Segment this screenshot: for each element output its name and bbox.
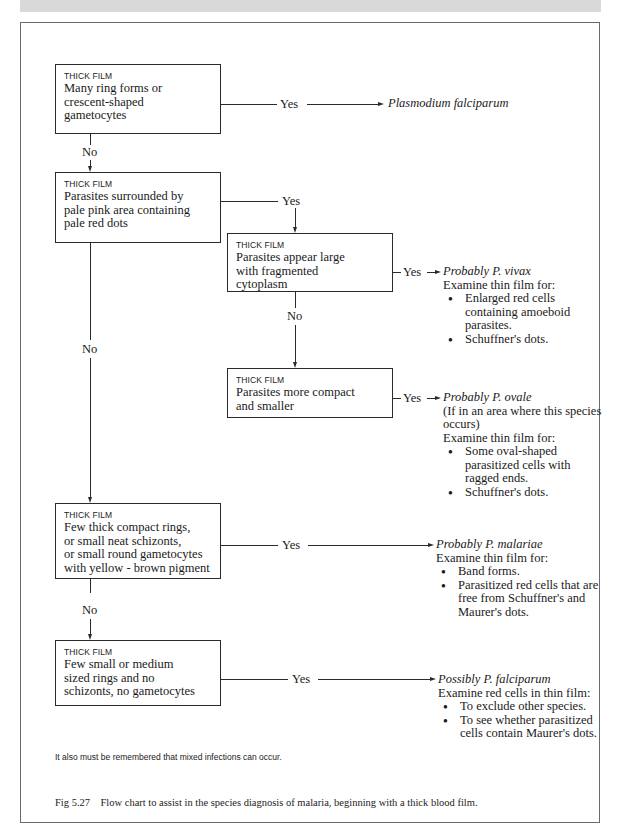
result-title: Probably P. ovale	[443, 391, 603, 405]
box-text: Few thick compact rings, or small neat s…	[64, 521, 212, 575]
arrow-right-icon	[378, 102, 384, 106]
result-bullets: Some oval-shaped parasitized cells with …	[443, 445, 603, 499]
result-title: Possibly P. falciparum	[438, 673, 598, 687]
bullet-item: Schuffner's dots.	[443, 333, 603, 347]
bullet-item: To see whether parasitized cells contain…	[438, 714, 598, 741]
connector-line	[221, 201, 278, 202]
arrow-right-icon	[430, 677, 436, 681]
connector-line	[295, 325, 296, 362]
bullet-item: Schuffner's dots.	[443, 486, 603, 500]
result-instruction: Examine red cells in thin film:	[438, 687, 598, 701]
edge-label-no: No	[82, 603, 97, 617]
result-instruction: Examine thin film for:	[436, 552, 601, 566]
arrow-right-icon	[435, 270, 441, 274]
bullet-item: Parasitized red cells that are free from…	[436, 579, 601, 620]
page-header-bar	[20, 0, 601, 12]
edge-label-no: No	[82, 145, 97, 159]
decision-box-pale-pink-area: THICK FILM Parasites surrounded by pale …	[55, 172, 221, 243]
decision-box-compact-smaller: THICK FILM Parasites more compact and sm…	[227, 368, 393, 418]
decision-box-small-medium-rings: THICK FILM Few small or medium sized rin…	[55, 640, 221, 706]
result-title: Probably P. malariae	[436, 538, 601, 552]
bullet-item: Enlarged red cells containing amoeboid p…	[443, 292, 603, 333]
box-text: Parasites more compact and smaller	[236, 386, 384, 413]
result-instruction: Examine thin film for:	[443, 432, 603, 446]
result-bullets: Enlarged red cells containing amoeboid p…	[443, 292, 603, 346]
connector-line	[308, 545, 429, 546]
bullet-item: Some oval-shaped parasitized cells with …	[443, 445, 603, 486]
box-text: Many ring forms or crescent-shaped gamet…	[64, 82, 212, 123]
decision-box-ring-forms: THICK FILM Many ring forms or crescent-s…	[55, 64, 221, 134]
connector-line	[393, 272, 401, 273]
result-falciparum: Plasmodium falciparum	[388, 97, 508, 111]
result-bullets: To exclude other species. To see whether…	[438, 700, 598, 741]
edge-label-no: No	[287, 309, 302, 323]
result-instruction: Examine thin film for:	[443, 279, 603, 293]
connector-line	[90, 243, 91, 340]
edge-label-yes: Yes	[282, 194, 300, 208]
result-note: (If in an area where this species occurs…	[443, 405, 603, 432]
edge-label-yes: Yes	[280, 97, 298, 111]
arrow-right-icon	[435, 396, 441, 400]
connector-line	[221, 104, 277, 105]
connector-line	[295, 208, 296, 228]
connector-line	[318, 679, 431, 680]
result-title: Probably P. vivax	[443, 265, 603, 279]
box-text: Few small or medium sized rings and no s…	[64, 658, 212, 699]
decision-box-large-fragmented: THICK FILM Parasites appear large with f…	[227, 233, 393, 292]
result-title: Plasmodium falciparum	[388, 96, 508, 110]
connector-line	[90, 358, 91, 497]
box-text: Parasites surrounded by pale pink area c…	[64, 190, 212, 231]
edge-label-yes: Yes	[403, 391, 421, 405]
edge-label-yes: Yes	[282, 538, 300, 552]
mixed-infection-note: It also must be remembered that mixed in…	[55, 752, 282, 762]
connector-line	[307, 104, 379, 105]
result-ovale: Probably P. ovale (If in an area where t…	[443, 391, 603, 499]
result-vivax: Probably P. vivax Examine thin film for:…	[443, 265, 603, 346]
connector-line	[295, 292, 296, 308]
box-text: Parasites appear large with fragmented c…	[236, 251, 384, 292]
edge-label-no: No	[82, 342, 97, 356]
arrow-right-icon	[428, 543, 434, 547]
connector-line	[90, 579, 91, 593]
connector-line	[221, 679, 288, 680]
bullet-item: To exclude other species.	[438, 700, 598, 714]
edge-label-yes: Yes	[403, 265, 421, 279]
edge-label-yes: Yes	[292, 672, 310, 686]
figure-caption: Fig 5.27 Flow chart to assist in the spe…	[55, 797, 478, 808]
connector-line	[393, 398, 401, 399]
connector-line	[221, 545, 278, 546]
result-bullets: Band forms. Parasitized red cells that a…	[436, 565, 601, 619]
result-malariae: Probably P. malariae Examine thin film f…	[436, 538, 601, 619]
connector-line	[90, 619, 91, 634]
bullet-item: Band forms.	[436, 565, 601, 579]
result-possibly-falciparum: Possibly P. falciparum Examine red cells…	[438, 673, 598, 741]
decision-box-thick-compact-rings: THICK FILM Few thick compact rings, or s…	[55, 503, 221, 579]
